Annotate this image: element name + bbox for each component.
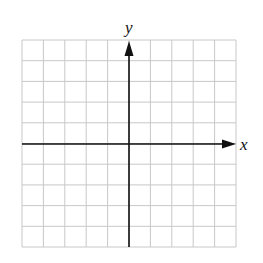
y-axis-label: y <box>123 18 133 37</box>
x-axis-arrow-icon <box>222 140 236 149</box>
x-axis-label: x <box>239 135 248 154</box>
y-axis-arrow-icon <box>125 41 134 56</box>
coordinate-plane: x y <box>0 0 263 263</box>
